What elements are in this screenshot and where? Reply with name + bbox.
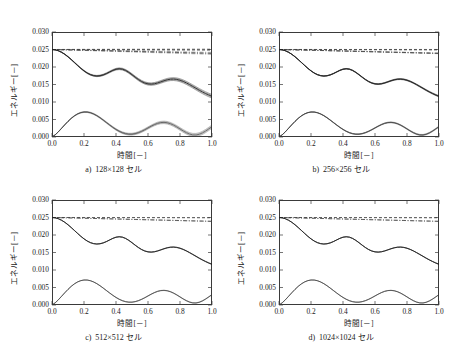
x-tick-label: 0.4 <box>329 139 357 148</box>
curve-kinetic-energy <box>52 218 212 265</box>
x-tick-label: 0.2 <box>297 139 325 148</box>
x-tick-label: 0.8 <box>393 139 421 148</box>
y-axis-label: エネルギー[－] <box>8 63 19 116</box>
y-axis-label: エネルギー[－] <box>235 63 246 116</box>
panel-caption-letter: c) <box>85 333 91 342</box>
panel-caption-title: 1024×1024 セル <box>319 333 374 342</box>
curve-kinetic-energy <box>279 50 439 96</box>
x-axis-label: 時間[－] <box>279 317 439 328</box>
curve-dissipation-energy <box>279 280 439 305</box>
curve-dissipation-energy <box>279 112 439 137</box>
panel-caption: b)256×256 セル <box>227 163 455 174</box>
x-tick-label: 0.6 <box>361 139 389 148</box>
x-tick-label: 0.6 <box>134 139 162 148</box>
panel-caption-title: 512×512 セル <box>95 333 142 342</box>
curve-kinetic-energy <box>279 50 439 97</box>
curve-kinetic-energy <box>279 50 439 97</box>
panel-caption-title: 128×128 セル <box>95 165 142 174</box>
curve-kinetic-energy <box>279 50 439 97</box>
y-tick-label: 0.030 <box>238 27 276 36</box>
panel-caption-letter: d) <box>308 333 315 342</box>
x-tick-label: 0.8 <box>393 307 421 316</box>
y-tick-label: 0.030 <box>238 195 276 204</box>
y-tick-label: 0.030 <box>11 27 49 36</box>
x-tick-label: 0.0 <box>38 307 66 316</box>
curve-dissipation-energy <box>52 280 212 305</box>
figure-panel-b: 0.0000.0050.0100.0150.0200.0250.0300.00.… <box>227 10 455 178</box>
x-axis-label: 時間[－] <box>52 149 212 160</box>
x-tick-label: 1.0 <box>425 139 453 148</box>
figure-panel-grid: 0.0000.0050.0100.0150.0200.0250.0300.00.… <box>0 10 455 353</box>
y-axis-label: エネルギー[－] <box>8 231 19 284</box>
y-tick-label: 0.025 <box>11 45 49 54</box>
x-tick-label: 0.4 <box>102 139 130 148</box>
curve-group <box>279 49 439 137</box>
x-tick-label: 1.0 <box>425 307 453 316</box>
x-tick-label: 0.0 <box>265 307 293 316</box>
y-tick-label: 0.025 <box>238 213 276 222</box>
figure-panel-a: 0.0000.0050.0100.0150.0200.0250.0300.00.… <box>0 10 227 178</box>
x-tick-label: 1.0 <box>198 139 226 148</box>
y-tick-label: 0.025 <box>11 213 49 222</box>
curve-kinetic-energy <box>279 218 439 265</box>
y-tick-label: 0.030 <box>11 195 49 204</box>
curve-group <box>279 217 439 305</box>
figure-panel-d: 0.0000.0050.0100.0150.0200.0250.0300.00.… <box>227 178 455 353</box>
x-axis-label: 時間[－] <box>52 317 212 328</box>
x-tick-label: 0.8 <box>166 139 194 148</box>
curve-kinetic-energy <box>279 218 439 265</box>
panel-caption: d)1024×1024 セル <box>227 331 455 342</box>
curve-group <box>52 217 212 305</box>
curve-kinetic-energy <box>52 50 212 95</box>
x-tick-label: 0.2 <box>70 139 98 148</box>
curve-kinetic-energy <box>52 218 212 265</box>
x-tick-label: 1.0 <box>198 307 226 316</box>
x-tick-label: 0.0 <box>38 139 66 148</box>
curve-total-energy-decaying <box>52 218 212 222</box>
axis-ticks <box>279 200 439 305</box>
x-axis-label: 時間[－] <box>279 149 439 160</box>
panel-caption-letter: b) <box>312 165 319 174</box>
curve-kinetic-energy <box>279 218 439 265</box>
panel-caption-letter: a) <box>85 165 91 174</box>
figure-panel-c: 0.0000.0050.0100.0150.0200.0250.0300.00.… <box>0 178 227 353</box>
panel-caption: a)128×128 セル <box>0 163 227 174</box>
panel-caption-title: 256×256 セル <box>323 165 370 174</box>
curve-group <box>52 49 212 137</box>
y-axis-label: エネルギー[－] <box>235 231 246 284</box>
curve-total-energy-decaying <box>279 218 439 222</box>
x-tick-label: 0.2 <box>297 307 325 316</box>
x-tick-label: 0.4 <box>102 307 130 316</box>
axis-ticks <box>52 200 212 305</box>
curve-kinetic-energy <box>52 218 212 265</box>
x-tick-label: 0.4 <box>329 307 357 316</box>
panel-caption: c)512×512 セル <box>0 331 227 342</box>
x-tick-label: 0.6 <box>361 307 389 316</box>
x-tick-label: 0.8 <box>166 307 194 316</box>
curve-kinetic-energy <box>52 50 212 97</box>
x-tick-label: 0.2 <box>70 307 98 316</box>
x-tick-label: 0.6 <box>134 307 162 316</box>
x-tick-label: 0.0 <box>265 139 293 148</box>
curve-kinetic-energy <box>52 50 212 96</box>
curve-kinetic-energy <box>279 50 439 97</box>
y-tick-label: 0.025 <box>238 45 276 54</box>
